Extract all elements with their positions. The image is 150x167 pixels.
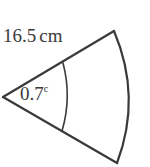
radius-unit: cm [39, 25, 62, 46]
sector-outer-arc [114, 31, 129, 163]
radius-length-label: 16.5cm [3, 26, 62, 45]
angle-measure-label: 0.7c [20, 84, 48, 103]
radius-value: 16.5 [3, 25, 36, 46]
angle-arc [62, 63, 67, 131]
sector-figure: 16.5cm 0.7c [0, 0, 150, 167]
radian-superscript-c: c [44, 83, 48, 94]
radius-line-lower [3, 97, 117, 163]
angle-value: 0.7 [20, 83, 44, 104]
